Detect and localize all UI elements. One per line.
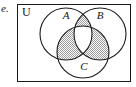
universe-label: U: [22, 5, 31, 19]
set-label-b: B: [97, 9, 104, 21]
set-label-c: C: [80, 60, 88, 72]
venn-diagram-figure: e. U: [0, 0, 136, 87]
venn-diagram-canvas: U A B C: [0, 0, 136, 87]
set-label-a: A: [62, 9, 70, 21]
